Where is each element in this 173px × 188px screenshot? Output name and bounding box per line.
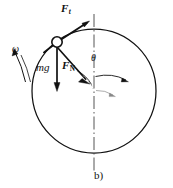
physics-diagram-figure: Ft mg FN θ ω b) — [0, 0, 173, 188]
right-curved-arrow — [96, 75, 129, 82]
figure-caption: b) — [94, 170, 103, 181]
bead-particle — [52, 37, 62, 47]
label-tangential-force: Ft — [61, 3, 71, 16]
label-angle-theta: θ — [91, 53, 96, 63]
weight-vector — [54, 47, 60, 92]
diagram-canvas — [0, 0, 173, 188]
label-weight: mg — [36, 62, 49, 73]
label-angular-velocity: ω — [12, 44, 19, 54]
angle-helper-curve — [96, 90, 116, 96]
label-normal-force: FN — [62, 60, 75, 73]
